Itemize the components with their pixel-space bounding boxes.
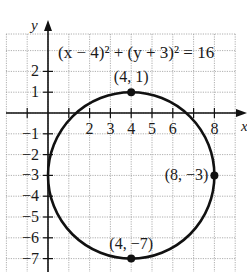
y-tick-label: 1 <box>31 83 39 100</box>
x-axis-label: x <box>240 118 247 134</box>
y-axis-label: y <box>29 17 38 33</box>
y-tick-label: 2 <box>31 62 39 79</box>
x-tick-label: 5 <box>148 120 156 137</box>
data-point <box>127 255 135 263</box>
x-tick-label: 2 <box>86 120 94 137</box>
y-axis-arrow-icon <box>44 20 52 31</box>
y-tick-label: −1 <box>22 125 39 142</box>
y-tick-label: −2 <box>22 146 39 163</box>
point-label: (8, −3) <box>165 166 209 184</box>
x-tick-label: 6 <box>169 120 177 137</box>
point-label: (4, −7) <box>109 235 153 253</box>
y-tick-label: −5 <box>22 208 39 225</box>
x-axis-arrow-icon <box>236 109 247 117</box>
data-point <box>210 171 218 179</box>
circle-graph: yx23456821−1−2−3−4−5−6−7(x − 4)² + (y + … <box>0 0 247 272</box>
x-tick-label: 3 <box>106 120 114 137</box>
y-tick-label: −7 <box>22 250 39 267</box>
x-tick-label: 4 <box>127 120 135 137</box>
y-tick-label: −4 <box>22 187 39 204</box>
x-tick-label: 8 <box>210 120 218 137</box>
data-point <box>127 88 135 96</box>
y-tick-label: −6 <box>22 229 39 246</box>
y-tick-label: −3 <box>22 166 39 183</box>
point-label: (4, 1) <box>114 68 149 86</box>
equation-label: (x − 4)² + (y + 3)² = 16 <box>58 43 214 62</box>
